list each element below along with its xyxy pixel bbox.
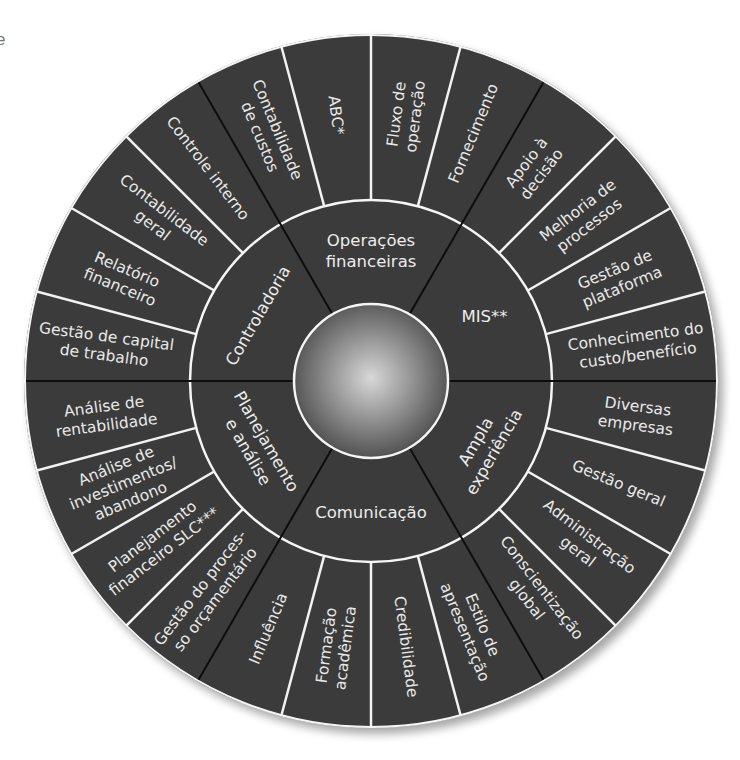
sector-label-line: financeiras <box>326 252 417 271</box>
sector-label-line: Comunicação <box>315 503 427 522</box>
sector-label: MIS** <box>461 307 507 326</box>
sector-label: Comunicação <box>315 503 427 522</box>
sector-label-line: Operações <box>327 231 415 250</box>
sector-label-line: MIS** <box>461 307 507 326</box>
competency-wheel: Conhecimento docusto/benefícioGestão dep… <box>0 0 740 760</box>
center-sphere <box>294 304 448 458</box>
